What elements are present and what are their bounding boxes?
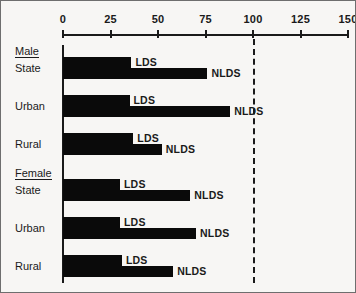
row-label-male-urban: Urban [15,100,45,112]
bar-label-lds-female-state: LDS [124,178,146,190]
bar-label-lds-male-rural: LDS [137,132,159,144]
x-tick-label-150: 150 [339,13,356,25]
x-tick-mark-0 [62,30,64,38]
bar-lds-male-rural [63,133,133,144]
bar-label-nlds-male-urban: NLDS [234,105,263,117]
bar-label-nlds-male-state: NLDS [211,67,240,79]
row-label-female-rural: Rural [15,260,41,272]
x-tick-mark-50 [157,30,159,38]
x-tick-mark-100 [252,30,254,38]
bar-nlds-female-urban [63,228,196,239]
x-tick-label-75: 75 [199,13,212,25]
bar-nlds-male-state [63,68,207,79]
bar-label-nlds-female-state: NLDS [194,189,223,201]
x-tick-mark-150 [347,30,349,38]
row-label-female-urban: Urban [15,222,45,234]
bar-lds-female-state [63,179,120,190]
x-tick-label-25: 25 [104,13,117,25]
row-label-male-rural: Rural [15,138,41,150]
row-label-female-state: State [15,184,41,196]
bar-label-nlds-female-rural: NLDS [177,265,206,277]
reference-line-100 [253,39,255,283]
bar-lds-male-urban [63,95,130,106]
bar-nlds-male-rural [63,144,162,155]
bar-label-lds-male-state: LDS [135,56,157,68]
bar-nlds-female-state [63,190,190,201]
row-label-male-state: State [15,62,41,74]
chart-container: 0255075100125150 MaleStateLDSNLDSUrbanLD… [0,0,356,293]
x-tick-label-0: 0 [60,13,66,25]
bar-label-nlds-male-rural: NLDS [166,143,195,155]
bar-lds-male-state [63,57,131,68]
group-title-male: Male [15,45,39,58]
bar-label-lds-female-rural: LDS [126,254,148,266]
bar-label-lds-female-urban: LDS [124,216,146,228]
x-tick-mark-75 [205,30,207,38]
x-tick-mark-25 [110,30,112,38]
x-tick-label-100: 100 [244,13,263,25]
x-tick-label-50: 50 [152,13,165,25]
group-title-female: Female [15,167,52,180]
y-axis-line [62,45,64,283]
bar-label-nlds-female-urban: NLDS [200,227,229,239]
bar-label-lds-male-urban: LDS [134,94,156,106]
x-axis-tick-labels: 0255075100125150 [1,13,356,27]
x-tick-mark-125 [300,30,302,38]
bar-nlds-male-urban [63,106,230,117]
bar-nlds-female-rural [63,266,173,277]
x-tick-label-125: 125 [291,13,310,25]
bar-lds-female-rural [63,255,122,266]
bar-lds-female-urban [63,217,120,228]
